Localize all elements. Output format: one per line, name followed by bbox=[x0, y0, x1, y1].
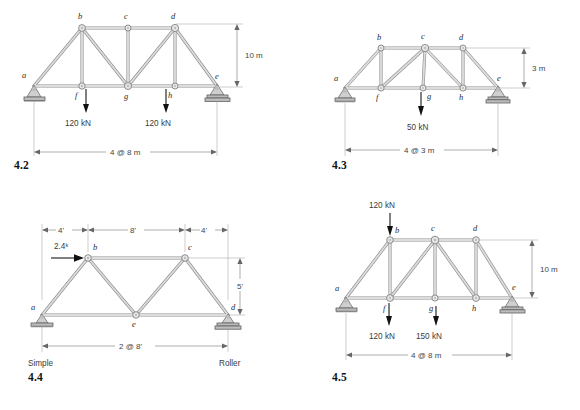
load-label-b: 120 kN bbox=[369, 201, 395, 210]
truss-members-4-3 bbox=[345, 48, 498, 88]
truss-members-4-2 bbox=[34, 28, 217, 86]
height-dimension-label: 10 m bbox=[540, 265, 558, 274]
panel-dimensions-4-4: 4' 8' 4' bbox=[42, 224, 228, 300]
svg-text:a: a bbox=[22, 70, 26, 80]
figure-number-4-4: 4.4 bbox=[28, 371, 43, 383]
truss-joints-4-5 bbox=[387, 236, 480, 301]
span-dimension-label: 2 @ 8' bbox=[119, 342, 142, 351]
load-label-f: 120 kN bbox=[369, 332, 395, 341]
load-label-g: 50 kN bbox=[407, 123, 428, 132]
truss-joints-4-4 bbox=[85, 255, 189, 319]
svg-text:f: f bbox=[383, 303, 387, 313]
svg-text:c: c bbox=[431, 223, 435, 233]
load-label-b: 2.4ᵏ bbox=[54, 242, 68, 251]
figure-number-4-5: 4.5 bbox=[332, 371, 347, 383]
svg-text:e: e bbox=[215, 71, 219, 81]
svg-text:b: b bbox=[377, 32, 381, 42]
height-dimension-label: 5' bbox=[237, 282, 243, 291]
span-dimension-label: 4 @ 8 m bbox=[110, 148, 141, 157]
load-label-h: 120 kN bbox=[145, 119, 171, 128]
height-dimension-4-4: 5' bbox=[185, 258, 249, 315]
load-label-f: 120 kN bbox=[65, 119, 91, 128]
figure-4-4: 4' 8' 4' 5' bbox=[0, 180, 290, 410]
height-dimension-label: 3 m bbox=[532, 64, 546, 73]
figure-4-5: 10 m bbox=[290, 180, 580, 410]
svg-text:c: c bbox=[124, 11, 128, 21]
figure-number-4-3: 4.3 bbox=[332, 159, 347, 171]
figure-4-2: 10 m bbox=[0, 0, 290, 180]
span-dimension-4-4: 2 @ 8' bbox=[42, 327, 228, 352]
svg-text:d: d bbox=[231, 302, 236, 312]
span-dimension-4-2: 4 @ 8 m bbox=[34, 101, 217, 158]
load-arrow-f-4-5: 120 kN bbox=[369, 303, 395, 341]
panel-dim-2: 8' bbox=[130, 226, 136, 235]
svg-text:d: d bbox=[473, 223, 478, 233]
svg-text:a: a bbox=[334, 73, 338, 83]
svg-text:b: b bbox=[78, 11, 82, 21]
panel-dim-1: 4' bbox=[58, 226, 64, 235]
svg-text:h: h bbox=[472, 303, 476, 313]
figure-number-4-2: 4.2 bbox=[14, 159, 29, 171]
svg-text:a: a bbox=[335, 283, 339, 293]
height-dimension-4-2: 10 m bbox=[176, 24, 263, 87]
node-labels-4-3: b c d a e f g h bbox=[334, 31, 501, 102]
svg-text:h: h bbox=[459, 92, 463, 102]
svg-text:a: a bbox=[31, 302, 35, 312]
load-arrow-b-4-4: 2.4ᵏ bbox=[51, 242, 84, 262]
svg-text:g: g bbox=[429, 303, 433, 313]
svg-text:g: g bbox=[427, 91, 431, 101]
span-dimension-label: 4 @ 8 m bbox=[411, 351, 442, 360]
svg-text:f: f bbox=[376, 92, 380, 102]
load-arrow-g-4-3: 50 kN bbox=[407, 92, 428, 132]
height-dimension-label: 10 m bbox=[245, 51, 263, 60]
height-dimension-4-5: 10 m bbox=[475, 240, 558, 298]
load-arrow-f-4-2: 120 kN bbox=[65, 89, 91, 128]
panel-dim-3: 4' bbox=[201, 226, 207, 235]
svg-text:e: e bbox=[512, 282, 516, 292]
svg-text:b: b bbox=[93, 242, 97, 252]
svg-text:e: e bbox=[132, 319, 136, 329]
svg-text:d: d bbox=[459, 32, 464, 42]
load-label-g: 150 kN bbox=[416, 332, 442, 341]
svg-text:d: d bbox=[171, 11, 176, 21]
textbook-figure-page: 10 m bbox=[0, 0, 580, 410]
span-dimension-label: 4 @ 3 m bbox=[404, 146, 435, 155]
svg-text:g: g bbox=[124, 91, 128, 101]
svg-text:b: b bbox=[395, 225, 399, 235]
height-dimension-4-3: 3 m bbox=[460, 48, 546, 88]
svg-text:c: c bbox=[421, 31, 425, 41]
truss-members-4-5 bbox=[346, 240, 512, 298]
svg-text:e: e bbox=[497, 73, 501, 83]
support-label-roller: Roller bbox=[219, 359, 241, 368]
support-label-simple: Simple bbox=[28, 359, 53, 368]
svg-text:c: c bbox=[188, 242, 192, 252]
load-arrow-b-4-5: 120 kN bbox=[369, 201, 395, 236]
truss-members-4-4 bbox=[42, 258, 228, 315]
svg-text:f: f bbox=[75, 90, 79, 100]
support-type-labels-4-4: Simple Roller bbox=[28, 359, 241, 368]
svg-text:h: h bbox=[168, 90, 172, 100]
figure-4-3: 3 m bbox=[290, 0, 580, 180]
